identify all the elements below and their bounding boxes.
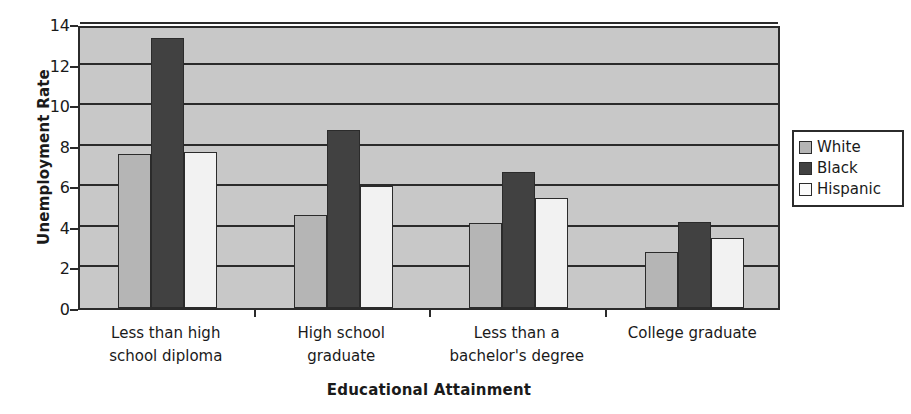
x-axis-category-label-line: graduate — [254, 345, 430, 368]
y-axis-tick-mark — [70, 228, 78, 230]
y-axis-tick-mark — [70, 147, 78, 149]
legend: WhiteBlackHispanic — [792, 130, 904, 207]
x-axis-category-label-line: Less than a — [429, 322, 605, 345]
x-axis-category-label-line: College graduate — [605, 322, 781, 345]
x-axis-category-label-line: school diploma — [78, 345, 254, 368]
legend-swatch-icon — [799, 183, 812, 196]
x-axis-tick-mark — [254, 310, 256, 317]
bar-group — [607, 28, 783, 308]
x-axis-category-label-line: High school — [254, 322, 430, 345]
bar-black-3 — [502, 172, 535, 308]
x-axis-category-label: Less than highschool diploma — [78, 322, 254, 368]
bar-white-3 — [469, 223, 502, 308]
gridline — [80, 22, 778, 24]
bar-hispanic-4 — [711, 238, 744, 308]
y-axis-tick-mark — [70, 187, 78, 189]
bar-chart: Unemployment Rate 02468101214 Less than … — [0, 0, 911, 414]
bar-group — [431, 28, 607, 308]
x-axis-tick-marks — [78, 310, 780, 317]
y-axis-tick-mark — [70, 268, 78, 270]
x-axis-category-label-line: bachelor's degree — [429, 345, 605, 368]
legend-item-label: Hispanic — [817, 181, 881, 198]
bar-white-1 — [118, 154, 151, 308]
x-axis-category-label: Less than abachelor's degree — [429, 322, 605, 368]
bar-black-4 — [678, 222, 711, 308]
bar-group — [80, 28, 256, 308]
bar-black-2 — [327, 130, 360, 309]
bar-group — [256, 28, 432, 308]
bar-hispanic-1 — [184, 152, 217, 308]
legend-item-label: White — [817, 139, 861, 156]
y-axis-tick-mark — [70, 25, 78, 27]
bar-hispanic-3 — [535, 198, 568, 308]
plot-area — [78, 26, 780, 310]
bar-black-1 — [151, 38, 184, 308]
x-axis-category-label-line: Less than high — [78, 322, 254, 345]
y-axis-tick-marks — [0, 26, 80, 310]
y-axis-tick-mark — [70, 106, 78, 108]
x-axis-category-label: High schoolgraduate — [254, 322, 430, 368]
bar-hispanic-2 — [360, 186, 393, 308]
legend-swatch-icon — [799, 141, 812, 154]
bar-white-4 — [645, 252, 678, 308]
legend-item-label: Black — [817, 160, 858, 177]
x-axis-title: Educational Attainment — [78, 381, 780, 399]
y-axis-tick-mark — [70, 66, 78, 68]
x-axis-category-label: College graduate — [605, 322, 781, 345]
bar-white-2 — [294, 215, 327, 308]
legend-item-black[interactable]: Black — [799, 158, 898, 179]
x-axis-category-labels: Less than highschool diplomaHigh schoolg… — [78, 322, 780, 378]
x-axis-tick-mark — [429, 310, 431, 317]
y-axis-tick-mark — [70, 309, 78, 311]
legend-swatch-icon — [799, 162, 812, 175]
legend-item-white[interactable]: White — [799, 137, 898, 158]
legend-item-hispanic[interactable]: Hispanic — [799, 179, 898, 200]
x-axis-tick-mark — [605, 310, 607, 317]
